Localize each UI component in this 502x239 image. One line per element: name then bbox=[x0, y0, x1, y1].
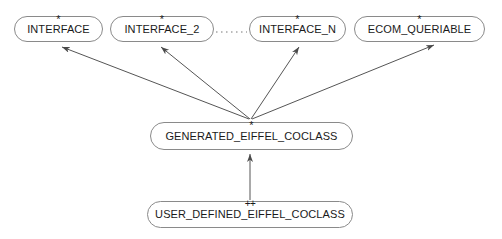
node-label: INTERFACE_N bbox=[259, 24, 336, 35]
node-label: ECOM_QUERIABLE bbox=[368, 24, 471, 35]
node-interface-n[interactable]: * INTERFACE_N bbox=[249, 16, 346, 42]
edge-generated-to-interface-n bbox=[251, 47, 299, 119]
edge-generated-to-ecom-queriable bbox=[252, 45, 434, 119]
node-label: GENERATED_EIFFEL_COCLASS bbox=[165, 131, 337, 142]
node-interface-2[interactable]: * INTERFACE_2 bbox=[110, 16, 214, 42]
node-label: USER_DEFINED_EIFFEL_COCLASS bbox=[155, 209, 345, 220]
node-generated-eiffel-coclass[interactable]: * GENERATED_EIFFEL_COCLASS bbox=[150, 122, 353, 150]
node-interface[interactable]: * INTERFACE bbox=[14, 16, 103, 42]
edge-generated-to-interface-2 bbox=[161, 47, 250, 119]
node-user-defined-eiffel-coclass[interactable]: ++ USER_DEFINED_EIFFEL_COCLASS bbox=[147, 201, 353, 228]
node-label: INTERFACE_2 bbox=[124, 24, 199, 35]
node-label: INTERFACE bbox=[27, 24, 90, 35]
node-ecom-queriable[interactable]: * ECOM_QUERIABLE bbox=[354, 16, 485, 42]
edge-generated-to-interface bbox=[62, 47, 249, 119]
class-diagram-canvas: * INTERFACE * INTERFACE_2 * INTERFACE_N … bbox=[0, 0, 502, 239]
